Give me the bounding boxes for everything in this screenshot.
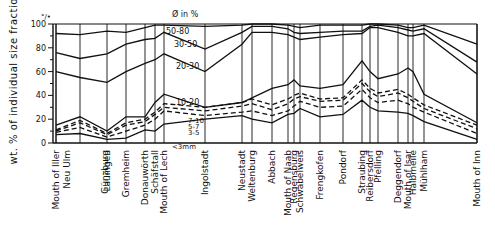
- station-label: Abbach: [267, 150, 277, 184]
- station-label: Gremheim: [121, 150, 131, 197]
- station-labels: Mouth of IllerNeu UlmGünzburgLauingenGre…: [51, 149, 482, 216]
- station-label: Pfelling: [373, 150, 383, 183]
- station-label: Ingolstadt: [200, 150, 210, 196]
- y-tick-label: 60: [36, 68, 46, 77]
- y-tick-label: 40: [36, 91, 46, 100]
- legend-label: 20-30: [176, 62, 199, 71]
- station-label: Neu Ulm: [62, 150, 72, 189]
- y-tick-label: 20: [36, 115, 46, 124]
- station-label: Schwabelweis: [295, 150, 305, 213]
- svg-text:Mühlham: Mühlham: [419, 150, 429, 192]
- station-label: Pondorf: [338, 149, 348, 184]
- curve-3-5: [56, 89, 477, 137]
- station-label: Mühlham: [419, 150, 429, 192]
- svg-text:Mouth of Inn: Mouth of Inn: [472, 150, 482, 207]
- legend-title: Ø in %: [172, 9, 199, 19]
- svg-text:Halbmeile: Halbmeile: [408, 150, 418, 196]
- curve-7-10: [56, 80, 477, 134]
- legend-label: 10-20: [176, 98, 199, 107]
- svg-text:Gremheim: Gremheim: [121, 150, 131, 197]
- svg-text:Neustadt: Neustadt: [237, 150, 247, 191]
- legend-label: <3mm: [172, 143, 196, 151]
- fraction-curves: [56, 24, 477, 139]
- grain-size-chart: 020406080100°/• Ø in %50-8030-5020-3010-…: [0, 0, 495, 234]
- station-label: Deggendorf: [393, 149, 403, 203]
- svg-text:Donauwörth: Donauwörth: [140, 150, 150, 205]
- curve-30-50: [56, 25, 477, 62]
- svg-text:Mouth of Lech: Mouth of Lech: [159, 150, 169, 214]
- legend-label: 3-5: [188, 129, 199, 137]
- y-tick-label: 0: [41, 139, 46, 148]
- station-label: Mouth of Lech: [159, 150, 169, 214]
- svg-text:Lauingen: Lauingen: [102, 150, 112, 191]
- y-tick-label: 80: [36, 44, 46, 53]
- svg-text:Mouth of Iller: Mouth of Iller: [51, 150, 61, 210]
- svg-text:Deggendorf: Deggendorf: [393, 149, 403, 203]
- svg-text:Weltenburg: Weltenburg: [247, 150, 257, 202]
- legend-label: 30-50: [174, 40, 197, 49]
- svg-text:Pondorf: Pondorf: [338, 149, 348, 184]
- svg-text:Pfelling: Pfelling: [373, 150, 383, 183]
- station-label: Neustadt: [237, 150, 247, 191]
- svg-text:Frengkofen: Frengkofen: [315, 150, 325, 200]
- svg-text:Schwabelweis: Schwabelweis: [295, 150, 305, 213]
- station-label: Mouth of Inn: [472, 150, 482, 207]
- station-label: Mouth of Iller: [51, 150, 61, 210]
- y-unit: °/•: [41, 13, 51, 21]
- station-label: Donauwörth: [140, 150, 150, 205]
- station-label: Lauingen: [102, 150, 112, 191]
- svg-text:Neu Ulm: Neu Ulm: [62, 150, 72, 189]
- station-label: Halbmeile: [408, 150, 418, 196]
- station-label: Weltenburg: [247, 150, 257, 202]
- fraction-legend: Ø in %50-8030-5020-3010-207-105-73-5<3mm: [166, 9, 204, 151]
- station-lines: [56, 24, 477, 143]
- curve-10-20: [56, 61, 477, 131]
- svg-text:Abbach: Abbach: [267, 150, 277, 184]
- svg-text:Ingolstadt: Ingolstadt: [200, 150, 210, 196]
- legend-label: 50-80: [166, 27, 189, 36]
- station-label: Frengkofen: [315, 150, 325, 200]
- y-tick-label: 100: [31, 20, 46, 29]
